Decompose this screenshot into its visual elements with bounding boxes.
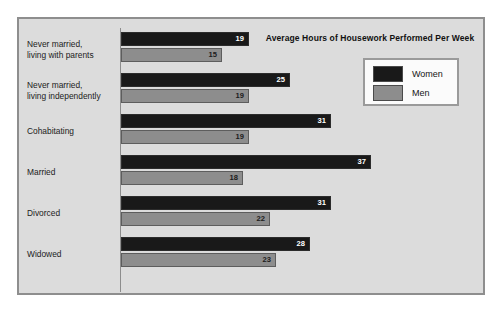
bar-women: 31 xyxy=(121,114,331,128)
category-group: Widowed2823 xyxy=(19,236,483,272)
bar-value-label: 19 xyxy=(236,133,244,141)
plot-area: Never married,living with parents1915Nev… xyxy=(19,19,483,293)
bar-value-label: 25 xyxy=(277,76,285,84)
chart-frame: Average Hours of Housework Performed Per… xyxy=(17,17,485,295)
bar-value-label: 15 xyxy=(209,51,217,59)
bar-value-label: 28 xyxy=(297,240,305,248)
category-label: Never married,living with parents xyxy=(27,39,117,60)
category-label: Married xyxy=(27,167,117,178)
bar-value-label: 19 xyxy=(236,92,244,100)
category-group: Never married,living independently2519 xyxy=(19,72,483,108)
bar-women: 19 xyxy=(121,32,249,46)
bar-value-label: 18 xyxy=(230,174,238,182)
bar-value-label: 37 xyxy=(358,158,366,166)
bar-men: 22 xyxy=(121,212,270,226)
bar-value-label: 23 xyxy=(263,256,271,264)
category-group: Divorced3122 xyxy=(19,195,483,231)
category-label: Divorced xyxy=(27,208,117,219)
category-group: Cohabitating3119 xyxy=(19,113,483,149)
bar-women: 25 xyxy=(121,73,290,87)
bar-women: 37 xyxy=(121,155,371,169)
bar-women: 31 xyxy=(121,196,331,210)
bar-men: 19 xyxy=(121,89,249,103)
bar-value-label: 31 xyxy=(318,199,326,207)
bar-value-label: 31 xyxy=(318,117,326,125)
bar-men: 19 xyxy=(121,130,249,144)
category-label: Cohabitating xyxy=(27,126,117,137)
category-label: Widowed xyxy=(27,249,117,260)
bar-men: 23 xyxy=(121,253,276,267)
category-group: Married3718 xyxy=(19,154,483,190)
bar-value-label: 22 xyxy=(257,215,265,223)
bar-men: 18 xyxy=(121,171,243,185)
bar-value-label: 19 xyxy=(236,35,244,43)
bar-men: 15 xyxy=(121,48,222,62)
category-label: Never married,living independently xyxy=(27,80,117,101)
bar-women: 28 xyxy=(121,237,310,251)
category-group: Never married,living with parents1915 xyxy=(19,31,483,67)
